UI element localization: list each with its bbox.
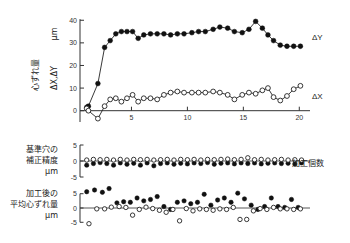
bottom-point-open: [117, 204, 121, 208]
data-point-ΔY: [130, 29, 135, 34]
bottom-point-open: [95, 207, 99, 211]
middle-point-open: [225, 157, 229, 161]
bottom-label-line2: 平均心ずれ量: [10, 199, 58, 209]
middle-point-filled: [111, 163, 115, 167]
bottom-point-filled: [236, 191, 240, 195]
bottom-point-filled: [175, 200, 179, 204]
top-y-tick-label: 30: [69, 39, 77, 46]
bottom-point-filled: [222, 196, 226, 200]
bottom-point-filled: [202, 192, 206, 196]
middle-point-open: [145, 157, 149, 161]
data-point-ΔY: [96, 81, 101, 86]
middle-point-open: [286, 158, 290, 162]
middle-point-open: [111, 158, 115, 162]
top-x-tick-label: 15: [239, 114, 247, 121]
middle-y-axis-label-group: 基準穴の 補正精度 μm: [26, 144, 58, 176]
middle-point-filled: [212, 162, 216, 166]
bottom-point-open: [198, 207, 202, 211]
bottom-point-filled: [269, 196, 273, 200]
middle-point-open: [246, 156, 250, 160]
bottom-point-open: [109, 205, 113, 209]
middle-point-open: [212, 158, 216, 162]
bottom-point-open: [258, 206, 262, 210]
bottom-point-filled: [242, 197, 246, 201]
bottom-point-filled: [189, 202, 193, 206]
middle-point-open: [125, 158, 129, 162]
top-y-axis-label-unit: μm: [50, 27, 59, 40]
data-point-ΔX: [175, 89, 180, 94]
data-point-ΔX: [266, 86, 271, 91]
middle-label-unit: μm: [45, 167, 58, 176]
bottom-label-line1: 加工後の: [26, 188, 58, 198]
data-point-ΔX: [113, 96, 118, 101]
middle-y-tick-label: 5: [73, 142, 77, 149]
data-point-ΔX: [141, 96, 146, 101]
middle-point-open: [118, 157, 122, 161]
data-point-ΔX: [182, 90, 187, 95]
bottom-label-unit: μm: [45, 211, 58, 220]
bottom-y-tick-label: 5: [73, 190, 77, 197]
data-point-ΔX: [136, 99, 141, 104]
data-point-ΔX: [225, 92, 230, 97]
data-point-ΔY: [113, 31, 118, 36]
data-point-ΔY: [203, 29, 208, 34]
middle-series-group: [85, 156, 304, 168]
data-point-ΔX: [96, 116, 101, 121]
bottom-point-open: [184, 206, 188, 210]
data-point-ΔY: [119, 29, 124, 34]
top-y-axis-label-primary: 心ずれ量: [30, 59, 40, 91]
data-point-ΔX: [125, 96, 130, 101]
data-point-ΔX: [240, 92, 245, 97]
data-point-ΔY: [136, 36, 141, 41]
data-point-ΔY: [253, 19, 258, 24]
panel-bottom: 50-5: [71, 186, 310, 226]
middle-y-ticks: 50-5: [71, 142, 84, 181]
bottom-point-open: [151, 206, 155, 210]
data-point-ΔY: [196, 29, 201, 34]
middle-point-filled: [138, 163, 142, 167]
data-point-ΔY: [162, 31, 167, 36]
middle-point-open: [178, 157, 182, 161]
middle-point-open: [239, 157, 243, 161]
bottom-point-filled: [155, 194, 159, 198]
middle-label-line2: 補正精度: [26, 155, 58, 165]
top-x-tick-label: 5: [130, 114, 134, 121]
bottom-point-open: [298, 207, 302, 211]
data-point-ΔX: [86, 108, 91, 113]
bottom-point-open: [164, 210, 168, 214]
bottom-point-filled: [195, 200, 199, 204]
bottom-point-open: [204, 207, 208, 211]
data-point-ΔY: [278, 43, 283, 48]
panel-top: 010203040 5101520 ΔY ΔX: [69, 17, 323, 122]
bottom-y-axis-label-group: 加工後の 平均心ずれ量 μm: [10, 188, 58, 220]
data-point-ΔX: [119, 99, 124, 104]
bottom-point-filled: [100, 190, 104, 194]
top-series-group: [84, 19, 302, 121]
data-point-ΔX: [298, 83, 303, 88]
middle-point-open: [266, 158, 270, 162]
data-point-ΔY: [182, 31, 187, 36]
middle-point-open: [205, 157, 209, 161]
middle-point-open: [172, 158, 176, 162]
data-point-ΔX: [108, 97, 113, 102]
data-point-ΔX: [211, 89, 216, 94]
top-y-tick-label: 10: [69, 85, 77, 92]
series-label-delta-x: ΔX: [312, 92, 323, 101]
bottom-point-filled: [135, 196, 139, 200]
middle-point-open: [232, 158, 236, 162]
bottom-point-filled: [92, 188, 96, 192]
bottom-point-open: [285, 207, 289, 211]
middle-point-open: [138, 158, 142, 162]
data-point-ΔY: [291, 44, 296, 49]
data-point-ΔY: [260, 26, 265, 31]
bottom-point-open: [137, 207, 141, 211]
bottom-point-open: [245, 217, 249, 221]
data-point-ΔX: [271, 95, 276, 100]
bottom-point-open: [144, 205, 148, 209]
middle-point-open: [199, 158, 203, 162]
bottom-point-filled: [107, 186, 111, 190]
data-point-ΔY: [125, 29, 130, 34]
middle-point-open: [219, 157, 223, 161]
middle-point-open: [272, 158, 276, 162]
data-point-ΔY: [211, 27, 216, 32]
